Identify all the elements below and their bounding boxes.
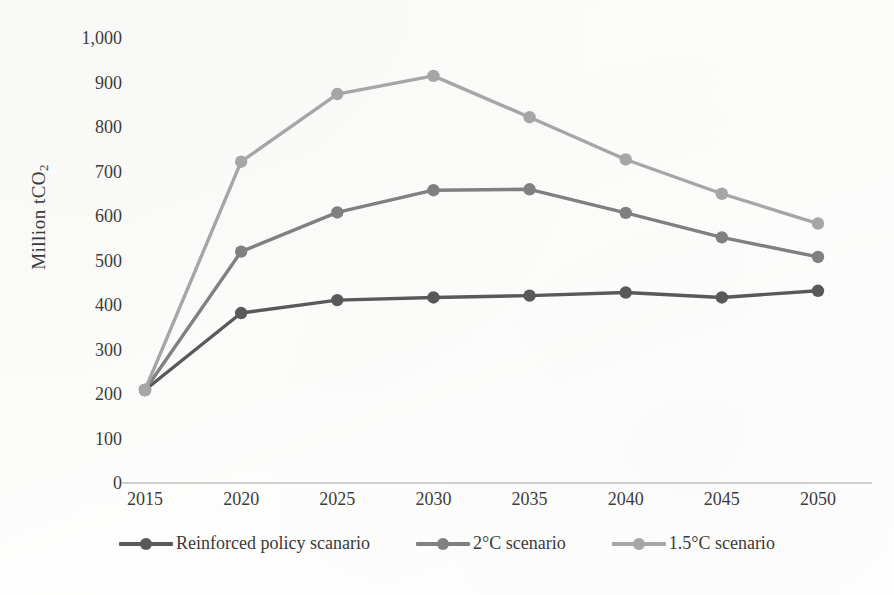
data-point-marker: [331, 206, 343, 218]
legend-marker-icon: [119, 536, 173, 552]
data-point-marker: [235, 245, 247, 257]
data-point-marker: [235, 307, 247, 319]
legend-item-label: 2°C scenario: [473, 533, 566, 554]
data-point-marker: [427, 184, 439, 196]
data-series-group: [139, 70, 824, 397]
legend-dot: [437, 538, 449, 550]
legend-item-label: Reinforced policy scanario: [176, 533, 370, 554]
series-line: [145, 291, 818, 390]
plot-area: [0, 0, 894, 595]
legend-item[interactable]: Reinforced policy scanario: [119, 533, 370, 554]
data-series: [139, 183, 824, 396]
legend-marker-icon: [416, 536, 470, 552]
data-point-marker: [139, 384, 151, 396]
data-point-marker: [812, 285, 824, 297]
data-point-marker: [812, 251, 824, 263]
data-point-marker: [620, 153, 632, 165]
data-point-marker: [331, 88, 343, 100]
data-series: [139, 285, 824, 397]
series-line: [145, 76, 818, 390]
data-point-marker: [523, 289, 535, 301]
series-line: [145, 189, 818, 390]
data-point-marker: [716, 291, 728, 303]
legend-dot: [633, 538, 645, 550]
legend-marker-icon: [612, 536, 666, 552]
legend-item[interactable]: 2°C scenario: [416, 533, 566, 554]
data-point-marker: [235, 156, 247, 168]
legend-item-label: 1.5°C scenario: [669, 533, 775, 554]
data-point-marker: [427, 291, 439, 303]
data-point-marker: [716, 231, 728, 243]
data-point-marker: [620, 286, 632, 298]
line-chart-figure: Million tCO2 1,0009008007006005004003002…: [0, 0, 894, 595]
data-point-marker: [620, 207, 632, 219]
data-point-marker: [716, 188, 728, 200]
chart-legend: Reinforced policy scanario2°C scenario1.…: [0, 533, 894, 554]
data-point-marker: [523, 111, 535, 123]
legend-item[interactable]: 1.5°C scenario: [612, 533, 775, 554]
data-point-marker: [523, 183, 535, 195]
legend-dot: [140, 538, 152, 550]
data-point-marker: [812, 217, 824, 229]
data-point-marker: [331, 294, 343, 306]
data-point-marker: [427, 70, 439, 82]
